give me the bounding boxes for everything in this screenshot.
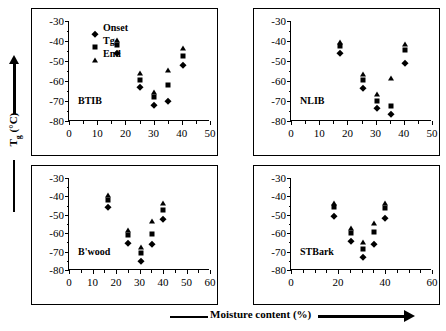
onset-point-marker bbox=[382, 215, 388, 221]
y-tick-label: -80 bbox=[271, 265, 286, 276]
end-point-marker bbox=[125, 227, 131, 232]
y-tick-label: -70 bbox=[49, 246, 64, 257]
x-tick-label: 20 bbox=[120, 128, 131, 139]
x-tick-minor bbox=[198, 270, 199, 273]
y-tick-label: -50 bbox=[49, 56, 64, 67]
y-tick-minor bbox=[289, 51, 292, 52]
x-tick-minor bbox=[128, 270, 129, 273]
tg-point-marker bbox=[360, 78, 365, 83]
y-tick-major bbox=[287, 178, 291, 179]
x-tick-major bbox=[291, 270, 292, 274]
end-point-marker bbox=[360, 72, 366, 77]
y-tick-label: -80 bbox=[271, 116, 286, 127]
plot-area: -30-40-50-60-70-8001020304050 bbox=[68, 21, 209, 121]
onset-point-marker bbox=[105, 203, 111, 209]
panel-title: B'wood bbox=[78, 246, 110, 257]
y-tick-minor bbox=[289, 242, 292, 243]
y-tick-major bbox=[65, 196, 69, 197]
figure-root: Tg (°C) Moisture content (%) -30-40-50-6… bbox=[0, 0, 446, 331]
y-tick-minor bbox=[67, 224, 70, 225]
x-tick-label: 40 bbox=[398, 128, 409, 139]
x-tick-major bbox=[210, 270, 211, 274]
end-point-marker bbox=[165, 68, 171, 73]
tg-point-marker bbox=[383, 206, 388, 211]
tg-point-marker bbox=[372, 230, 377, 235]
y-tick-minor bbox=[67, 206, 70, 207]
x-tick-minor bbox=[362, 121, 363, 124]
legend-label: Onset bbox=[103, 22, 128, 33]
y-tick-major bbox=[65, 233, 69, 234]
x-tick-minor bbox=[305, 121, 306, 124]
end-point-marker bbox=[388, 76, 394, 81]
x-tick-minor bbox=[140, 121, 141, 124]
y-axis-caption-tail-line bbox=[13, 160, 15, 212]
tg-point-marker bbox=[181, 54, 186, 59]
x-tick-label: 20 bbox=[111, 277, 122, 288]
chart-panel-btib: -30-40-50-60-70-8001020304050BTIBOnsetTg… bbox=[31, 8, 218, 156]
x-tick-major bbox=[385, 270, 386, 274]
y-tick-label: -70 bbox=[271, 246, 286, 257]
tg-point-marker bbox=[348, 231, 353, 236]
y-tick-label: -40 bbox=[49, 191, 64, 202]
tg-point-marker bbox=[114, 43, 119, 48]
y-tick-minor bbox=[67, 91, 70, 92]
y-tick-major bbox=[287, 41, 291, 42]
onset-point-marker bbox=[137, 258, 143, 264]
tg-point-marker bbox=[137, 78, 142, 83]
y-tick-minor bbox=[289, 91, 292, 92]
y-axis-caption-group: Tg (°C) bbox=[0, 60, 30, 270]
onset-point-marker bbox=[164, 98, 170, 104]
tg-point-marker bbox=[403, 48, 408, 53]
x-tick-label: 10 bbox=[314, 128, 325, 139]
onset-point-marker bbox=[160, 216, 166, 222]
x-tick-major bbox=[432, 270, 433, 274]
tg-point-marker bbox=[332, 205, 337, 210]
tg-point-marker bbox=[105, 198, 110, 203]
x-tick-major bbox=[154, 121, 155, 125]
y-tick-label: -60 bbox=[49, 228, 64, 239]
onset-point-marker bbox=[371, 241, 377, 247]
end-point-marker bbox=[337, 40, 343, 45]
y-tick-major bbox=[287, 101, 291, 102]
x-tick-major bbox=[210, 121, 211, 125]
x-tick-minor bbox=[390, 121, 391, 124]
x-tick-label: 60 bbox=[427, 277, 438, 288]
x-tick-label: 30 bbox=[370, 128, 381, 139]
x-tick-minor bbox=[315, 270, 316, 273]
x-tick-major bbox=[116, 270, 117, 274]
x-tick-major bbox=[338, 270, 339, 274]
end-point-marker bbox=[160, 200, 166, 205]
x-tick-minor bbox=[151, 270, 152, 273]
y-tick-label: -40 bbox=[271, 36, 286, 47]
x-axis-caption-group: Moisture content (%) bbox=[170, 306, 446, 328]
y-tick-label: -30 bbox=[271, 16, 286, 27]
x-tick-minor bbox=[196, 121, 197, 124]
x-tick-label: 0 bbox=[66, 277, 72, 288]
y-tick-minor bbox=[289, 111, 292, 112]
x-tick-major bbox=[347, 121, 348, 125]
x-tick-label: 0 bbox=[66, 128, 72, 139]
y-tick-major bbox=[287, 215, 291, 216]
tg-point-marker bbox=[125, 233, 130, 238]
y-tick-minor bbox=[67, 261, 70, 262]
y-tick-label: -70 bbox=[49, 96, 64, 107]
x-tick-minor bbox=[81, 270, 82, 273]
y-tick-major bbox=[65, 215, 69, 216]
end-point-marker bbox=[138, 245, 144, 250]
legend-label: Tg bbox=[103, 35, 115, 46]
x-tick-major bbox=[69, 270, 70, 274]
end-point-marker bbox=[114, 38, 120, 43]
x-tick-label: 0 bbox=[288, 128, 294, 139]
end-point-marker bbox=[151, 90, 157, 95]
y-tick-label: -40 bbox=[49, 36, 64, 47]
x-tick-label: 50 bbox=[181, 277, 192, 288]
y-tick-minor bbox=[289, 31, 292, 32]
y-tick-label: -50 bbox=[271, 56, 286, 67]
tg-point-marker bbox=[138, 250, 143, 255]
x-tick-label: 40 bbox=[158, 277, 169, 288]
panel-title: NLIB bbox=[300, 95, 324, 106]
end-point-marker bbox=[371, 221, 377, 226]
y-tick-minor bbox=[67, 71, 70, 72]
y-tick-minor bbox=[289, 71, 292, 72]
x-tick-label: 20 bbox=[342, 128, 353, 139]
